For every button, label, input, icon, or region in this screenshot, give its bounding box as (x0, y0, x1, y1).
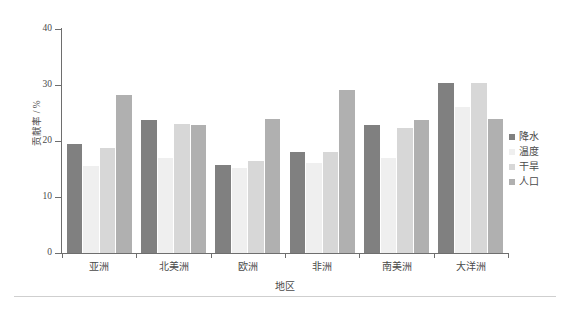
y-axis-tick (55, 85, 61, 86)
x-axis-category-label: 非洲 (282, 261, 362, 272)
x-axis-category-label: 大洋洲 (431, 261, 511, 272)
x-axis-category-label: 亚洲 (59, 261, 139, 272)
y-axis-tick (55, 29, 61, 30)
legend-item-label: 温度 (519, 146, 539, 157)
y-axis-tick (55, 197, 61, 198)
bar (414, 120, 430, 253)
bar (67, 144, 83, 253)
x-axis-tick (434, 253, 435, 258)
bar (381, 158, 397, 253)
y-axis-tick-label: 0 (12, 248, 52, 258)
bar (83, 166, 99, 253)
bar (471, 83, 487, 253)
x-axis-tick (62, 253, 63, 258)
bar (397, 128, 413, 253)
bar (174, 124, 190, 253)
y-axis-tick (55, 253, 61, 254)
x-axis-tick (211, 253, 212, 258)
footer-divider (14, 296, 556, 297)
bar (116, 95, 132, 253)
x-axis-title: 地区 (0, 281, 570, 292)
bar (438, 83, 454, 253)
legend-swatch-icon (509, 164, 515, 170)
legend-item-label: 降水 (519, 131, 539, 142)
bar (141, 120, 157, 253)
bar (339, 90, 355, 253)
legend-item[interactable]: 干旱 (509, 159, 565, 174)
x-axis-tick (136, 253, 137, 258)
bar (232, 168, 248, 253)
bar (364, 125, 380, 253)
legend-item-label: 干旱 (519, 161, 539, 172)
legend-item[interactable]: 降水 (509, 129, 565, 144)
bar (158, 158, 174, 253)
bar (306, 163, 322, 253)
bar (488, 119, 504, 253)
legend-item[interactable]: 人口 (509, 174, 565, 189)
y-axis-tick-label: 10 (12, 192, 52, 202)
chart-figure: 010203040 贡献率 / % 亚洲北美洲欧洲非洲南美洲大洋洲 地区 降水温… (0, 0, 570, 311)
bar (191, 125, 207, 253)
legend-swatch-icon (509, 149, 515, 155)
y-axis-title: 贡献率 / % (32, 78, 42, 168)
bar (215, 165, 231, 253)
x-axis-tick (359, 253, 360, 258)
x-axis-tick (285, 253, 286, 258)
x-axis-category-label: 北美洲 (134, 261, 214, 272)
bar (265, 119, 281, 253)
legend-swatch-icon (509, 179, 515, 185)
x-axis-tick (508, 253, 509, 258)
legend-item-label: 人口 (519, 176, 539, 187)
y-axis-tick (55, 141, 61, 142)
bar (100, 148, 116, 253)
y-axis-tick-label: 40 (12, 24, 52, 34)
bar (290, 152, 306, 253)
legend-swatch-icon (509, 134, 515, 140)
chart-legend: 降水温度干旱人口 (509, 129, 565, 189)
x-axis-category-label: 南美洲 (357, 261, 437, 272)
bar (248, 161, 264, 253)
legend-item[interactable]: 温度 (509, 144, 565, 159)
x-axis-category-label: 欧洲 (208, 261, 288, 272)
bar (323, 152, 339, 253)
bar (455, 107, 471, 253)
plot-area (62, 29, 508, 253)
